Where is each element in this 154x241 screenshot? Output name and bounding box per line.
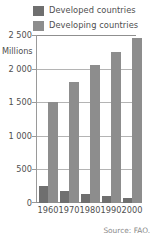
bar-group-1960 [38,35,59,203]
legend-item-developed: Developed countries [33,4,151,17]
y-tick-label: 500 [0,165,32,174]
bar-developing-1990 [111,52,121,203]
x-tick-label-2000: 2000 [120,205,144,215]
y-tick-label: 0 [0,199,32,208]
legend-swatch-developed-icon [33,6,44,16]
chart-legend: Developed countries Developing countries [33,4,151,34]
bars-layer [36,35,136,203]
bar-developing-2000 [132,38,142,203]
y-tick-label: 1 500 [0,98,32,107]
source-note: Source: FAO. [103,226,150,235]
legend-swatch-developing-icon [33,21,44,31]
y-tick-label: 1 000 [0,132,32,141]
bar-group-1980 [80,35,101,203]
legend-label-developed: Developed countries [49,6,136,15]
bar-group-1970 [59,35,80,203]
legend-item-developing: Developing countries [33,19,151,32]
x-axis-labels: 1960 1970 1980 1990 2000 [36,205,136,217]
y-tick-label: 2 000 [0,65,32,74]
bar-developing-1980 [90,65,100,203]
y-tick-label: 2 500 [0,31,32,40]
y-axis-unit-label: Millions [2,47,33,56]
bar-chart: Developed countries Developing countries… [0,0,154,241]
bar-developing-1960 [48,102,58,203]
y-axis-labels: 2 500 2 000 1 500 1 000 500 0 [0,35,32,203]
bar-group-2000 [122,35,143,203]
bar-developing-1970 [69,82,79,203]
legend-label-developing: Developing countries [49,21,138,30]
bar-group-1990 [101,35,122,203]
